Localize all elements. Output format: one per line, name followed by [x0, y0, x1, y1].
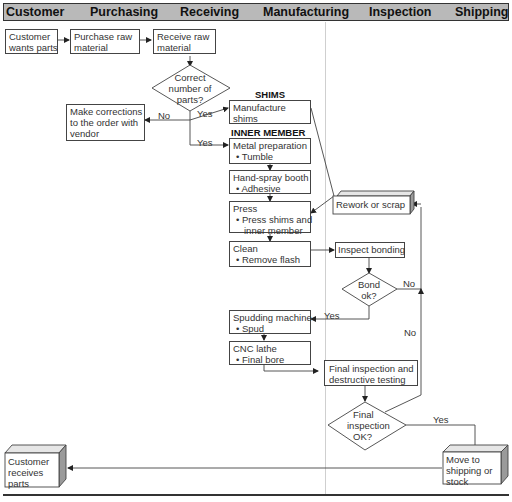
section-label-inner-member: INNER MEMBER	[231, 127, 305, 138]
node-text: parts?	[162, 94, 218, 105]
node-make-corrections: Make corrections to the order with vendo…	[66, 104, 145, 141]
node-text: • Adhesive	[233, 183, 307, 194]
edge-label-no: No	[404, 327, 416, 338]
node-text: material	[157, 42, 212, 53]
node-text: • Remove flash	[233, 254, 307, 265]
node-text: vendor	[70, 128, 141, 139]
node-text: Press	[233, 203, 307, 214]
node-text: receives	[8, 467, 49, 478]
node-text: • Press shims and	[233, 214, 307, 225]
node-hand-spray-booth: Hand-spray booth • Adhesive	[229, 170, 311, 194]
edge-label-no: No	[403, 278, 415, 289]
node-text: wants parts	[9, 42, 54, 53]
decision-bond-ok: Bond ok?	[352, 279, 386, 301]
edge-label-yes: Yes	[197, 137, 213, 148]
process-flowchart: Customer Purchasing Receiving Manufactur…	[0, 0, 512, 502]
node-text: Customer	[8, 456, 49, 467]
node-text: Purchase raw	[74, 31, 136, 42]
node-text: Receive raw	[157, 31, 212, 42]
node-customer-wants-parts: Customer wants parts	[5, 29, 58, 54]
node-clean: Clean • Remove flash	[229, 241, 311, 267]
node-manufacture-shims: Manufacture shims	[229, 100, 311, 124]
section-label-shims: SHIMS	[255, 89, 285, 100]
node-text: Hand-spray booth	[233, 172, 307, 183]
node-text: number of	[162, 83, 218, 94]
node-text: Spudding machine	[233, 312, 307, 323]
node-text: inspection	[343, 420, 389, 431]
node-rework-or-scrap: Rework or scrap	[336, 199, 405, 210]
node-text: Correct	[162, 72, 218, 83]
node-text: parts	[8, 478, 49, 489]
node-text: to the order with	[70, 117, 141, 128]
node-text: Metal preparation	[233, 140, 307, 151]
node-receive-raw-material: Receive raw material	[153, 29, 216, 54]
node-text: shims	[233, 113, 307, 124]
node-final-inspection: Final inspection and destructive testing	[324, 360, 418, 386]
edge-label-yes: Yes	[197, 108, 213, 119]
node-press: Press • Press shims and inner member	[229, 201, 311, 233]
node-cnc-lathe: CNC lathe • Final bore	[229, 341, 311, 365]
node-text: inner member	[233, 225, 307, 236]
node-text: CNC lathe	[233, 343, 307, 354]
node-text: Final inspection and	[329, 363, 413, 374]
node-metal-preparation: Metal preparation • Tumble	[229, 138, 311, 164]
node-text: • Final bore	[233, 354, 307, 365]
decision-correct-number-of-parts: Correct number of parts?	[162, 72, 218, 105]
node-move-to-shipping: Move to shipping or stock	[446, 454, 492, 487]
edge-label-no: No	[158, 110, 170, 121]
node-text: shipping or	[446, 465, 492, 476]
edge-label-yes: Yes	[433, 414, 449, 425]
node-purchase-raw-material: Purchase raw material	[70, 29, 140, 54]
node-text: material	[74, 42, 136, 53]
node-text: stock	[446, 476, 492, 487]
edge-label-yes: Yes	[324, 310, 340, 321]
node-text: Bond	[352, 279, 386, 290]
node-text: Customer	[9, 31, 54, 42]
node-text: OK?	[343, 431, 389, 442]
node-text: Manufacture	[233, 102, 307, 113]
node-text: destructive testing	[329, 374, 413, 385]
node-text: • Tumble	[233, 151, 307, 162]
node-text: Final	[343, 409, 389, 420]
node-text: • Spud	[233, 323, 307, 334]
node-text: Clean	[233, 243, 307, 254]
node-customer-receives-parts: Customer receives parts	[8, 456, 49, 489]
node-text: Move to	[446, 454, 492, 465]
node-inspect-bonding: Inspect bonding	[335, 242, 405, 258]
node-text: Make corrections	[70, 106, 141, 117]
decision-final-inspection-ok: Final inspection OK?	[343, 409, 389, 442]
node-text: Inspect bonding	[338, 244, 402, 255]
node-spudding-machine: Spudding machine • Spud	[229, 310, 311, 334]
node-text: ok?	[352, 290, 386, 301]
